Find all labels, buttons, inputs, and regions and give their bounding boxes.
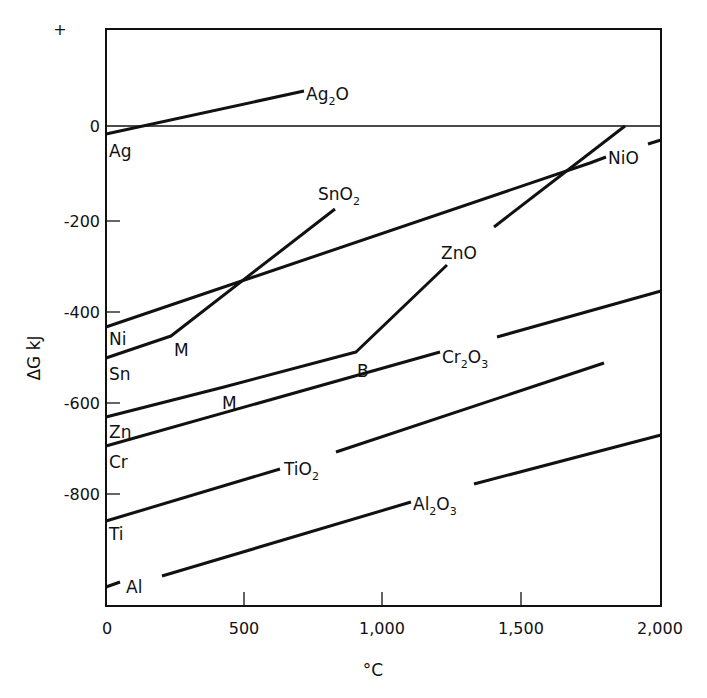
x-tick-label-0: 0 [102,619,112,638]
label-nio: NiO [608,148,639,168]
line-nio [106,157,606,327]
x-axis [244,592,521,606]
x-tick-label-1500: 1,500 [498,619,544,638]
label-zn: Zn [109,422,131,442]
y-axis-title: ΔG kJ [24,335,44,380]
line-tio2-high [336,363,604,452]
x-tick-label-2000: 2,000 [637,619,683,638]
label-zn-melting-m: M [222,393,237,413]
label-ti: Ti [108,524,124,544]
x-tick-label-500: 500 [229,619,260,638]
label-ag2o: Ag2O [306,84,349,108]
line-al2o3-high [474,435,661,484]
ellingham-diagram: 0 -200 -400 -600 -800 + 0 500 1,000 1,50… [0,0,707,698]
label-zn-boiling-b: B [357,361,369,381]
line-al2o3 [162,502,411,576]
label-cr: Cr [109,452,128,472]
line-cr2o3-high [497,291,661,337]
label-ag: Ag [109,141,131,161]
line-nio-end [648,140,661,144]
y-tick-label-200: -200 [64,212,100,231]
line-tio2 [106,469,280,521]
label-sn-melting-m: M [174,340,189,360]
y-plus-marker: + [53,20,66,39]
y-tick-label-0: 0 [90,117,100,136]
x-axis-title: °C [363,660,383,680]
x-tick-label-1000: 1,000 [359,619,405,638]
label-cr2o3: Cr2O3 [442,347,488,371]
label-al: Al [126,577,142,597]
label-sno2: SnO2 [318,184,360,208]
line-cr2o3 [106,352,440,446]
label-zno: ZnO [441,243,477,263]
label-sn: Sn [109,364,131,384]
label-tio2: TiO2 [283,459,319,483]
y-tick-label-800: -800 [64,485,100,504]
line-zno-high [494,126,625,227]
line-sno2 [106,209,335,358]
line-al2o3-low [106,582,120,587]
label-al2o3: Al2O3 [413,494,457,518]
line-ag2o [106,91,304,134]
label-ni: Ni [109,329,126,349]
y-tick-label-600: -600 [64,394,100,413]
y-tick-label-400: -400 [64,303,100,322]
